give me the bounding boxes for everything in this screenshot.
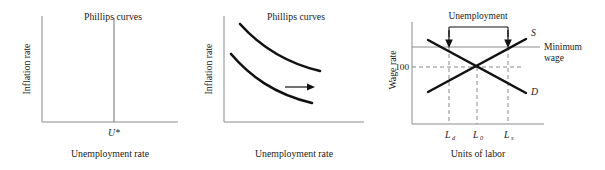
svg-text:d: d	[452, 134, 456, 141]
panel-1-x-axis-label: Unemployment rate	[71, 148, 150, 159]
svg-text:L: L	[472, 129, 478, 140]
short-run-phillips-curve-lower	[231, 54, 312, 103]
panel-phillips-short-run: Phillips curves Inflation rate Unemploym…	[196, 0, 401, 170]
panel-minimum-wage-labor-market: Unemployment S D Minimum wage 100 L d L …	[398, 0, 605, 170]
panel-3-x-axis-label: Units of labor	[451, 148, 506, 159]
panel-2-svg: Phillips curves Inflation rate Unemploym…	[196, 0, 401, 170]
economics-figure: Phillips curves Inflation rate U* Unempl…	[0, 0, 605, 170]
panel-phillips-long-run: Phillips curves Inflation rate U* Unempl…	[0, 0, 200, 170]
svg-text:L: L	[444, 129, 450, 140]
panel-2-y-axis-label: Inflation rate	[203, 43, 214, 95]
minimum-wage-label-line2: wage	[544, 53, 564, 63]
x-tick-ls: L s	[503, 129, 514, 141]
demand-curve-label: D	[530, 86, 538, 97]
short-run-phillips-curve-upper	[240, 24, 320, 71]
x-tick-ld: L d	[444, 129, 456, 141]
panel-1-svg: Phillips curves Inflation rate U* Unempl…	[0, 0, 200, 170]
panel-1-y-axis-label: Inflation rate	[21, 43, 32, 95]
svg-text:L: L	[503, 129, 509, 140]
panel-2-x-axis-label: Unemployment rate	[255, 148, 334, 159]
unemployment-label: Unemployment	[448, 11, 507, 21]
natural-rate-marker: U*	[108, 127, 120, 138]
supply-curve-label: S	[531, 27, 536, 38]
svg-text:0: 0	[480, 134, 484, 141]
minimum-wage-label-line1: Minimum	[544, 42, 583, 52]
panel-2-title: Phillips curves	[267, 11, 325, 22]
panel-3-svg: Unemployment S D Minimum wage 100 L d L …	[398, 0, 605, 170]
panel-1-title: Phillips curves	[84, 11, 142, 22]
unemployment-bracket	[445, 27, 512, 48]
panel-3-y-axis-label: Wage rate	[387, 50, 398, 90]
svg-text:s: s	[511, 134, 514, 141]
x-tick-l0: L 0	[472, 129, 484, 141]
shift-arrow-icon	[285, 83, 315, 90]
